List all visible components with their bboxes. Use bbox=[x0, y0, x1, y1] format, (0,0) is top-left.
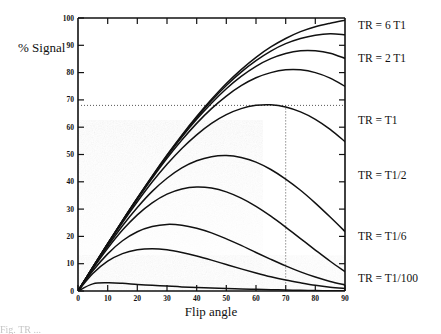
series-label-tr-t1-2: TR = T1/2 bbox=[358, 169, 407, 181]
x-tick-label: 30 bbox=[163, 294, 171, 303]
figure-caption: Fig. TR ... bbox=[0, 324, 441, 334]
y-axis-title: % Signal bbox=[18, 40, 66, 55]
x-tick-label: 50 bbox=[223, 294, 231, 303]
y-tick-label: 60 bbox=[67, 123, 75, 132]
series-label-tr-t1-6: TR = T1/6 bbox=[358, 230, 407, 242]
y-tick-label: 10 bbox=[67, 259, 75, 268]
y-tick-labels: 0 10 20 30 40 50 60 70 80 90 100 bbox=[63, 14, 75, 296]
y-tick-label: 0 bbox=[70, 287, 74, 296]
series-label-tr-2t1: TR = 2 T1 bbox=[358, 52, 406, 64]
x-tick-label: 10 bbox=[104, 294, 112, 303]
scan-artifact bbox=[78, 120, 345, 291]
x-tick-label: 90 bbox=[341, 294, 349, 303]
x-tick-label: 0 bbox=[76, 294, 80, 303]
x-tick-label: 60 bbox=[252, 294, 260, 303]
x-axis-title: Flip angle bbox=[185, 304, 238, 319]
y-tick-label: 30 bbox=[67, 205, 75, 214]
series-label-tr-t1: TR = T1 bbox=[358, 114, 398, 126]
x-tick-label: 70 bbox=[282, 294, 290, 303]
y-tick-label: 50 bbox=[67, 150, 75, 159]
x-tick-label: 80 bbox=[312, 294, 320, 303]
y-tick-label: 70 bbox=[67, 95, 75, 104]
x-tick-label: 40 bbox=[193, 294, 201, 303]
y-tick-label: 20 bbox=[67, 232, 75, 241]
x-tick-labels: 0 10 20 30 40 50 60 70 80 90 bbox=[76, 294, 349, 303]
series-label-tr-t1-100: TR = T1/100 bbox=[358, 272, 418, 284]
figure-container: 0 10 20 30 40 50 60 70 80 90 100 0 10 20… bbox=[0, 0, 441, 334]
y-tick-label: 90 bbox=[67, 41, 75, 50]
series-label-tr-6t1: TR = 6 T1 bbox=[358, 19, 406, 31]
y-tick-label: 40 bbox=[67, 177, 75, 186]
signal-vs-flip-angle-chart: 0 10 20 30 40 50 60 70 80 90 100 0 10 20… bbox=[0, 0, 441, 334]
top-axis-ticks bbox=[108, 18, 316, 24]
x-tick-label: 20 bbox=[134, 294, 142, 303]
y-tick-label: 80 bbox=[67, 68, 75, 77]
y-tick-label: 100 bbox=[63, 14, 75, 23]
